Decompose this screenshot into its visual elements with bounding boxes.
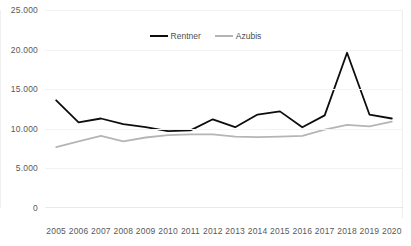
plot-area [45,10,403,208]
x-axis-tick-label: 2014 [248,226,268,236]
gridline [45,89,403,90]
series-line-rentner [56,53,392,131]
x-axis-tick-label: 2011 [181,226,200,236]
x-axis-tick-label: 2017 [315,226,335,236]
x-axis-tick-label: 2020 [382,226,402,236]
x-axis-tick-label: 2010 [158,226,178,236]
y-axis: 25.00020.00015.00010.0005.0000 [0,0,44,246]
x-axis-tick-label: 2018 [337,226,357,236]
x-axis-tick-label: 2015 [270,226,290,236]
line-chart: 25.00020.00015.00010.0005.0000 Rentner A… [0,0,411,246]
y-axis-tick-label: 20.000 [11,45,38,55]
gridline [45,50,403,51]
x-axis-tick-label: 2019 [360,226,380,236]
x-axis-tick-label: 2005 [46,226,66,236]
x-axis-tick-label: 2007 [91,226,111,236]
series-line-azubis [56,122,392,147]
x-axis-tick-label: 2006 [69,226,89,236]
y-axis-tick-label: 25.000 [11,5,38,15]
y-axis-tick-label: 15.000 [11,84,38,94]
x-axis: 2005200620072008200920102011201220132014… [45,226,403,240]
gridline [45,129,403,130]
x-axis-tick-label: 2008 [113,226,133,236]
series-layer [45,10,403,208]
x-axis-tick-label: 2009 [136,226,156,236]
gridline [45,10,403,11]
y-axis-tick-label: 0 [33,203,38,213]
y-axis-line [0,10,1,208]
x-axis-tick-label: 2013 [225,226,245,236]
x-axis-tick-label: 2012 [203,226,223,236]
x-axis-tick-label: 2016 [292,226,312,236]
y-axis-tick-label: 10.000 [11,124,38,134]
gridline [45,168,403,169]
y-axis-tick-label: 5.000 [16,163,38,173]
